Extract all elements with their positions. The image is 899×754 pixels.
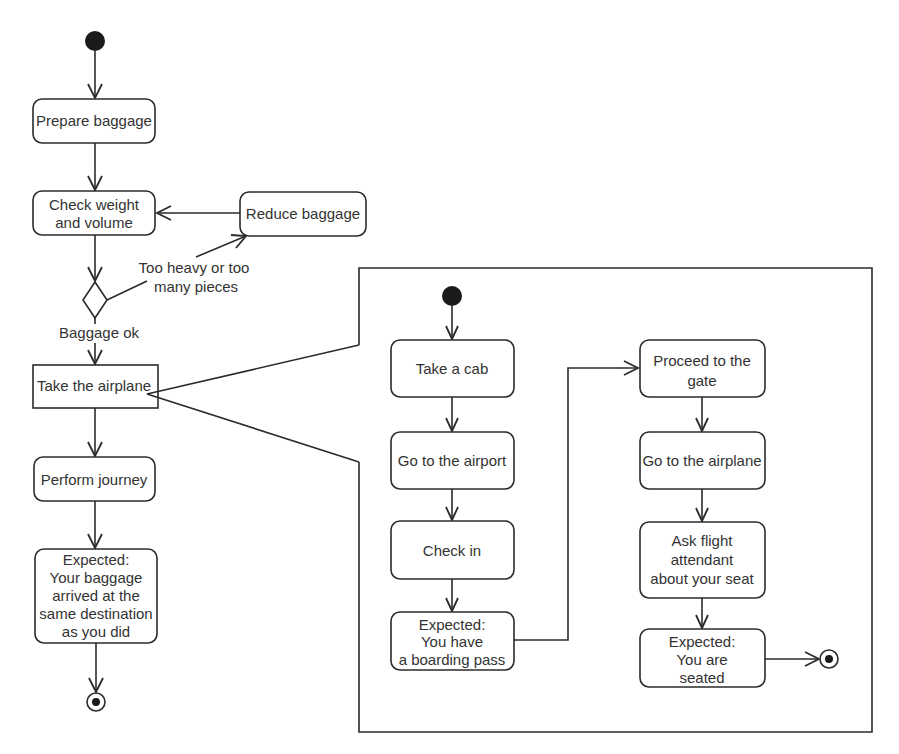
edge-pass-gate — [514, 368, 638, 640]
final-node — [87, 693, 105, 711]
expected-pass-line-1: Expected: — [419, 616, 486, 633]
expected-baggage-line-3: arrived at the — [52, 587, 140, 604]
expected-seated-line-1: Expected: — [669, 633, 736, 650]
action-prepare-baggage-label: Prepare baggage — [36, 112, 152, 129]
expected-pass-line-3: a boarding pass — [399, 651, 506, 668]
initial-node — [85, 31, 105, 51]
action-take-the-airplane-label: Take the airplane — [37, 377, 151, 394]
action-reduce-baggage-label: Reduce baggage — [246, 205, 360, 222]
callout-line-bottom — [147, 394, 359, 462]
expected-baggage-line-1: Expected: — [63, 551, 130, 568]
action-check-weight-label-1: Check weight — [49, 196, 140, 213]
activity-diagram: Prepare baggage Check weight and volume … — [0, 0, 899, 754]
expected-seated-line-2: You are — [676, 651, 727, 668]
expected-baggage-line-4: same destination — [39, 605, 152, 622]
action-take-a-cab-label: Take a cab — [416, 360, 489, 377]
expected-baggage-line-2: Your baggage — [50, 569, 143, 586]
edge-decision-reduce-a — [107, 281, 147, 300]
expected-seated-line-3: seated — [679, 669, 724, 686]
action-check-weight-label-2: and volume — [55, 214, 133, 231]
action-check-in-label: Check in — [423, 542, 481, 559]
ask-line-2: attendant — [671, 551, 734, 568]
sub-final-node — [820, 650, 838, 668]
edge-decision-reduce-b — [196, 236, 246, 257]
proceed-gate-line-2: gate — [687, 372, 716, 389]
decision-node — [83, 282, 107, 318]
expected-pass-line-2: You have — [421, 633, 483, 650]
action-perform-journey-label: Perform journey — [41, 471, 148, 488]
decision-reject-label-1: Too heavy or too — [139, 259, 250, 276]
action-go-to-airport-label: Go to the airport — [398, 452, 507, 469]
decision-accept-label: Baggage ok — [59, 324, 140, 341]
ask-line-1: Ask flight — [672, 532, 734, 549]
action-go-to-airplane-label: Go to the airplane — [642, 452, 761, 469]
callout-line-top — [147, 345, 359, 394]
expected-baggage-line-5: as you did — [62, 623, 130, 640]
decision-reject-label-2: many pieces — [154, 278, 238, 295]
sub-initial-node — [442, 286, 462, 306]
proceed-gate-line-1: Proceed to the — [653, 352, 751, 369]
ask-line-3: about your seat — [650, 570, 754, 587]
